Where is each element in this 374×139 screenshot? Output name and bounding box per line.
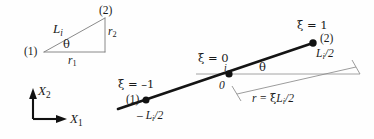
beam-node-1-label: (1) [126, 94, 139, 106]
triangle-r2-label: r2 [108, 26, 117, 40]
radius-dimension-tick-right [352, 60, 360, 74]
axis-x2-arrowhead [29, 88, 37, 99]
beam-right-half-length-label: Li/2 [316, 48, 334, 62]
axis-x1-label: X1 [70, 112, 83, 128]
xi-end-label: ξ = 1 [297, 20, 328, 32]
triangle-r1-label: r1 [68, 55, 77, 69]
triangle-node-1-label: (1) [24, 46, 37, 58]
axis-x2-label: X2 [38, 84, 51, 100]
beam-element-geometry-figure: (1) (2) Li r2 r1 θ X2 X1 ξ = –1 (1) – Li… [0, 0, 374, 139]
beam-node-2-dot [309, 39, 316, 46]
triangle-theta-label: θ [63, 39, 70, 51]
beam-origin-label: 0 [219, 80, 225, 92]
beam-theta-label: θ [259, 62, 266, 74]
radius-dimension-label: r = ξLi/2 [252, 93, 294, 107]
axis-x1-arrowhead [56, 115, 67, 123]
triangle-node-2-label: (2) [99, 5, 112, 17]
beam-left-half-length-label: – Li/2 [137, 110, 163, 124]
beam-node-2-label: (2) [320, 33, 333, 45]
xi-start-label: ξ = –1 [118, 79, 154, 91]
beam-center-node-label: i [224, 63, 227, 73]
beam-node-1-dot [143, 97, 150, 104]
triangle-length-label: Li [53, 22, 63, 38]
radius-dimension-line [237, 67, 356, 94]
